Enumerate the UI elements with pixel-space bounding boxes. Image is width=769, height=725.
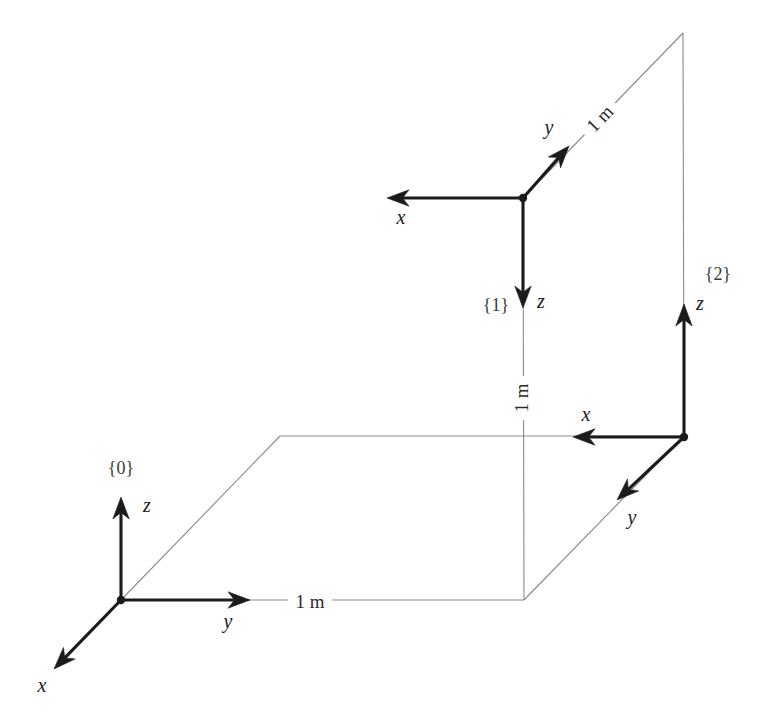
axis-1-z-label: z bbox=[536, 290, 545, 312]
dim-ground-1m-label: 1 m bbox=[295, 591, 324, 612]
axis-2-y-label: y bbox=[626, 506, 637, 529]
axis-1-y[interactable]: y bbox=[523, 116, 569, 198]
axis-1-z[interactable]: z bbox=[515, 198, 545, 312]
frame-2-name-label: {2} bbox=[705, 264, 731, 284]
axis-1-y-shaft bbox=[523, 158, 559, 198]
axis-1-y-label: y bbox=[543, 116, 554, 139]
frame-1: xyz{1} bbox=[387, 116, 569, 315]
frame-1-name-label: {1} bbox=[483, 295, 509, 315]
dimension-labels-group: 1 m1 m1 m bbox=[288, 96, 622, 612]
frame-2: zxy{2} bbox=[573, 264, 731, 529]
axis-0-y[interactable]: y bbox=[121, 592, 250, 633]
axis-2-x[interactable]: x bbox=[573, 403, 684, 445]
axis-1-x-label: x bbox=[396, 206, 406, 228]
axis-2-y[interactable]: y bbox=[617, 437, 684, 529]
axis-2-z-label: z bbox=[695, 292, 704, 314]
coordinate-frames-diagram: zyx{0}xyz{1}zxy{2} 1 m1 m1 m bbox=[0, 0, 769, 725]
ground-plane-left-edge bbox=[121, 436, 280, 600]
dim-vertical-1m-label: 1 m bbox=[511, 383, 532, 412]
frame-0-origin-dot bbox=[117, 596, 125, 604]
axis-0-z[interactable]: z bbox=[113, 494, 151, 600]
axis-0-x-label: x bbox=[37, 674, 47, 696]
axis-2-y-shaft bbox=[628, 437, 684, 489]
frame-0-name-label: {0} bbox=[108, 458, 134, 478]
axis-0-y-label: y bbox=[222, 610, 233, 633]
dim-vertical-1m: 1 m bbox=[511, 376, 532, 420]
coordinate-frames-group: zyx{0}xyz{1}zxy{2} bbox=[37, 116, 732, 696]
axis-0-z-label: z bbox=[142, 494, 151, 516]
diagram-canvas: zyx{0}xyz{1}zxy{2} 1 m1 m1 m bbox=[0, 0, 769, 725]
frame-1-origin-dot bbox=[519, 194, 527, 202]
frame-2-origin-dot bbox=[680, 433, 688, 441]
axis-2-z[interactable]: z bbox=[676, 292, 704, 437]
dim-ground-1m: 1 m bbox=[288, 591, 332, 612]
axis-2-x-label: x bbox=[581, 403, 591, 425]
axis-0-x[interactable]: x bbox=[37, 600, 121, 696]
axis-1-x[interactable]: x bbox=[387, 190, 523, 228]
axis-0-x-shaft bbox=[65, 600, 121, 658]
